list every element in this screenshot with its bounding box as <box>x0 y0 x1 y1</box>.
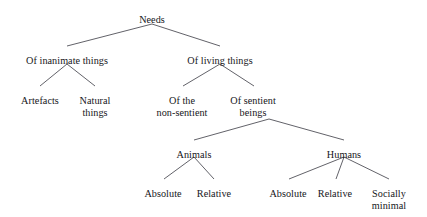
edge-living-nonsentient <box>183 64 220 86</box>
edge-inanimate-artefacts <box>40 64 67 86</box>
tree-node-sentient-beings: Of sentient beings <box>230 95 276 118</box>
tree-node-inanimate: Of inanimate things <box>26 55 108 67</box>
edge-sentient-humans <box>269 119 344 140</box>
edge-sentient-animals <box>194 119 269 140</box>
tree-node-artefacts: Artefacts <box>21 95 59 107</box>
tree-node-natural-things: Natural things <box>80 95 111 118</box>
tree-node-humans-relative: Relative <box>318 188 352 200</box>
tree-node-humans-absolute: Absolute <box>269 188 306 200</box>
tree-node-needs: Needs <box>139 14 165 26</box>
tree-node-socially-minimal: Socially minimal <box>372 188 406 211</box>
tree-node-humans: Humans <box>327 149 361 161</box>
tree-node-living: Of living things <box>187 55 252 67</box>
edge-inanimate-natural <box>67 64 95 86</box>
edge-living-sentient <box>220 64 254 86</box>
edge-needs-inanimate <box>67 24 152 46</box>
edge-needs-living <box>152 24 220 46</box>
needs-taxonomy-diagram: NeedsOf inanimate thingsOf living things… <box>0 0 427 217</box>
tree-node-non-sentient: Of the non-sentient <box>157 95 208 118</box>
tree-node-animals-relative: Relative <box>197 188 231 200</box>
tree-node-animals-absolute: Absolute <box>144 188 181 200</box>
tree-node-animals: Animals <box>177 149 212 161</box>
tree-edge-layer <box>0 0 427 217</box>
